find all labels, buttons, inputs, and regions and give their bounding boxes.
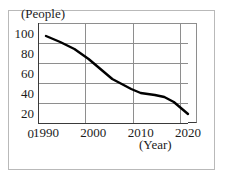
y-tick-label-40: 40 xyxy=(0,87,34,100)
y-tick-label-80: 80 xyxy=(0,47,34,60)
gridline-horizontal-0 xyxy=(38,123,188,124)
gridline-horizontal-80 xyxy=(38,43,188,44)
gridline-vertical-2000 xyxy=(85,23,86,123)
y-tick-label-100: 100 xyxy=(0,27,34,40)
gridline-horizontal-60 xyxy=(38,63,188,64)
chart-figure: (People) (Year) 020406080100 19902000201… xyxy=(0,0,225,179)
x-tick-label-1990: 1990 xyxy=(24,126,68,139)
y-tick-label-60: 60 xyxy=(0,67,34,80)
gridline-vertical-2020 xyxy=(180,23,181,123)
x-tick-label-2010: 2010 xyxy=(119,126,163,139)
gridline-vertical-1990 xyxy=(38,23,39,123)
gridline-horizontal-20 xyxy=(38,103,188,104)
gridline-horizontal-40 xyxy=(38,83,188,84)
gridline-vertical-2010 xyxy=(133,23,134,123)
clipped-header-text xyxy=(9,0,69,5)
gridline-horizontal-100 xyxy=(38,23,188,24)
plot-right-margin xyxy=(188,23,197,123)
x-tick-label-2020: 2020 xyxy=(166,126,210,139)
plot-area xyxy=(38,23,188,123)
y-tick-label-20: 20 xyxy=(0,107,34,120)
x-tick-label-2000: 2000 xyxy=(71,126,115,139)
